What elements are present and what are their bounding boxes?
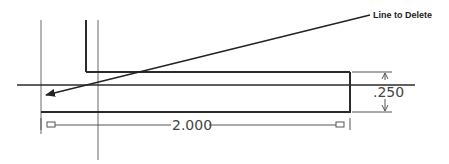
dim-arrow-right-icon: [336, 122, 344, 127]
leader-arrow-icon: [46, 15, 370, 95]
dim-arrow-left-icon: [47, 122, 55, 127]
length-dimension-value[interactable]: 2.000: [172, 117, 212, 133]
length-dimension[interactable]: 2.000: [41, 117, 350, 133]
cad-sketch-canvas: Line to Delete 2.000 .250: [0, 0, 449, 164]
thickness-dimension-value[interactable]: .250: [373, 84, 404, 100]
line-to-delete-label: Line to Delete: [373, 10, 432, 20]
thickness-dimension[interactable]: .250: [352, 72, 404, 112]
